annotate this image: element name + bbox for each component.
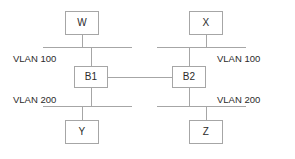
link-vlan100-left-to-b1: [91, 47, 92, 66]
vlan-label-vlan200-right: VLAN 200: [217, 95, 260, 105]
link-w-to-vlan100-left: [82, 35, 83, 48]
network-diagram-canvas: VLAN 100 VLAN 100 VLAN 200 VLAN 200 W X …: [0, 0, 295, 159]
link-vlan200-right-to-z: [206, 106, 207, 120]
link-x-to-vlan100-right: [206, 35, 207, 48]
node-w: W: [65, 11, 99, 35]
vlan-bus-vlan200-left: [43, 106, 132, 107]
vlan-bus-vlan200-right: [157, 106, 246, 107]
vlan-label-vlan100-left: VLAN 100: [13, 54, 56, 64]
vlan-bus-vlan100-left: [43, 47, 132, 48]
link-b1-to-b2-trunk: [108, 77, 172, 78]
node-b1: B1: [74, 66, 108, 88]
vlan-label-vlan100-right: VLAN 100: [217, 54, 260, 64]
link-b2-to-vlan200-right: [189, 88, 190, 107]
node-x: X: [189, 11, 223, 35]
vlan-bus-vlan100-right: [157, 47, 246, 48]
vlan-label-vlan200-left: VLAN 200: [13, 95, 56, 105]
node-b2: B2: [172, 66, 206, 88]
link-b1-to-vlan200-left: [91, 88, 92, 107]
link-vlan100-right-to-b2: [189, 47, 190, 66]
node-y: Y: [65, 120, 99, 144]
link-vlan200-left-to-y: [82, 106, 83, 120]
node-z: Z: [189, 120, 223, 144]
